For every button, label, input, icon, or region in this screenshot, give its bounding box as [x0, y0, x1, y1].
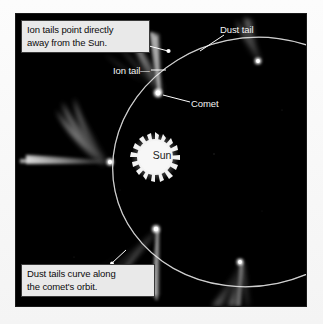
space-scene: Ion tails point directly away from the S… — [16, 14, 306, 306]
leader-comet-label — [163, 95, 190, 102]
label-dust-tail: Dust tail — [220, 24, 253, 35]
label-comet: Comet — [191, 98, 218, 109]
leader-dot-ion-callout — [166, 49, 170, 53]
label-sun: Sun — [140, 150, 184, 161]
comet-perihelion-left — [20, 98, 113, 166]
callout-ion-tails: Ion tails point directly away from the S… — [21, 20, 150, 53]
figure-container: Ion tails point directly away from the S… — [0, 0, 323, 324]
starfield — [73, 109, 282, 257]
leader-dust-callout — [112, 250, 126, 263]
callout-dust-tails: Dust tails curve along the comet's orbit… — [21, 264, 155, 297]
label-ion-tail: Ion tail— — [113, 65, 150, 76]
leader-dust-tail-label — [200, 35, 224, 51]
comet-lower-right — [212, 259, 252, 306]
